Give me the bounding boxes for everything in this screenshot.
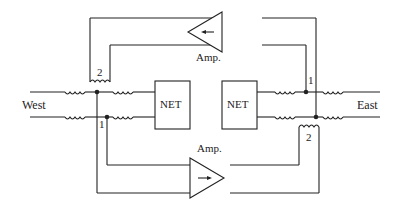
- label-net-left: NET: [160, 98, 181, 110]
- label-amp-bottom: Amp.: [197, 142, 222, 154]
- junction-dots: [95, 90, 319, 120]
- label-winding-2-left: 2: [97, 66, 103, 78]
- amplifier-bottom: [190, 158, 224, 198]
- west-lower-line: [30, 117, 155, 119]
- label-west: West: [22, 98, 46, 113]
- circuit-diagram: West East NET NET Amp. Amp. 2 1 1 2: [0, 0, 405, 211]
- circuit-drawing: [0, 0, 405, 211]
- label-winding-1-left: 1: [99, 118, 105, 130]
- label-east: East: [357, 98, 378, 113]
- label-net-right: NET: [227, 98, 248, 110]
- label-winding-1-right: 1: [308, 74, 314, 86]
- label-winding-2-right: 2: [306, 131, 312, 143]
- label-amp-top: Amp.: [196, 51, 221, 63]
- east-upper-line: [257, 92, 380, 94]
- west-upper-line: [30, 92, 155, 94]
- east-lower-line: [257, 117, 380, 119]
